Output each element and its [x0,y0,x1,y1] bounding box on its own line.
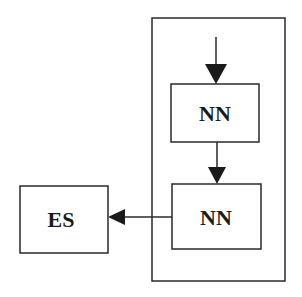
node-es-label: ES [48,207,75,232]
nn1-to-nn2-arrow [208,142,226,184]
node-nn1: NN [171,84,259,142]
nn2-to-es-arrow [108,209,172,225]
node-es: ES [20,186,108,253]
node-nn2: NN [172,184,261,249]
node-nn2-label: NN [200,205,232,230]
input-arrow [205,37,227,84]
node-nn1-label: NN [199,101,231,126]
diagram-canvas: NN NN ES [0,0,302,297]
